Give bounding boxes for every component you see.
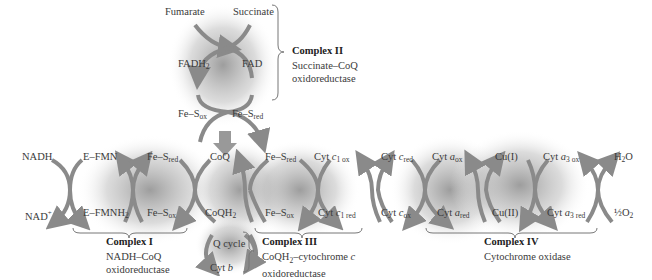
label-fes-ox-c1: Fe–Sox xyxy=(147,207,176,222)
label-coqh2: CoQH2 xyxy=(205,207,236,222)
label-fumarate: Fumarate xyxy=(165,6,205,18)
label-fes-red-c3: Fe–Sred xyxy=(265,151,296,166)
label-fes-red-c2: Fe–Sred xyxy=(232,108,263,123)
label-nadh: NADH xyxy=(22,151,52,163)
label-cyt-c-red: Cyt cred xyxy=(381,151,413,166)
label-fadh2: FADH2 xyxy=(178,58,210,73)
label-half-o2: ½O2 xyxy=(614,207,633,222)
complex1-title: Complex I xyxy=(106,236,153,247)
label-fad: FAD xyxy=(242,58,262,70)
label-cyt-c-ox: Cyt cox xyxy=(381,207,411,222)
label-coq: CoQ xyxy=(210,151,230,163)
complex4-desc: Cytochrome oxidase xyxy=(484,250,571,263)
label-efmnh2: E–FMNH2 xyxy=(83,207,129,222)
complex3-desc: CoQH2–cytochrome coxidoreductase xyxy=(262,250,355,280)
label-cyt-c1-red: Cyt c1 red xyxy=(318,207,356,222)
label-cyt-a-ox: Cyt aox xyxy=(432,151,463,166)
label-cu-ii: Cu(II) xyxy=(492,207,518,219)
complex2-desc: Succinate–CoQoxidoreductase xyxy=(292,59,358,85)
label-efmn: E–FMN xyxy=(83,151,117,163)
label-cyt-a3-red: Cyt a3 red xyxy=(547,207,585,222)
label-h2o: H2O xyxy=(614,151,633,166)
label-succinate: Succinate xyxy=(233,6,274,18)
label-cyt-b: Cyt b xyxy=(210,262,233,274)
label-cyt-a-red: Cyt ared xyxy=(437,207,470,222)
label-fes-red-c1: Fe–Sred xyxy=(147,151,178,166)
label-fes-ox-c2: Fe–Sox xyxy=(178,108,207,123)
label-cu-i: Cu(I) xyxy=(495,151,518,163)
complex1-desc: NADH–CoQoxidoreductase xyxy=(106,250,170,276)
complex2-title: Complex II xyxy=(292,45,343,56)
label-cyt-a3-ox: Cyt a3 ox xyxy=(543,151,579,166)
label-cyt-c1-ox: Cyt c1 ox xyxy=(314,151,350,166)
complex3-title: Complex III xyxy=(262,236,317,247)
label-fes-ox-c3: Fe–Sox xyxy=(265,207,294,222)
complex4-title: Complex IV xyxy=(484,236,539,247)
label-nad: NAD+ xyxy=(25,207,52,223)
label-q-cycle: Q cycle xyxy=(213,238,245,250)
